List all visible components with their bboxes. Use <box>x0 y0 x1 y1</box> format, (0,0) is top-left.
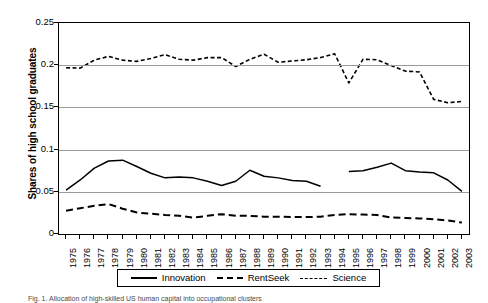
figure-caption: Fig. 1. Allocation of high-skilled US hu… <box>28 295 468 303</box>
x-axis-tick-mark <box>206 235 207 239</box>
x-axis-tick-mark <box>221 235 222 239</box>
y-axis-tick-label: 0.05 <box>20 186 54 196</box>
x-axis-tick-label: 2001 <box>437 248 446 268</box>
x-axis-tick-label: 1979 <box>126 248 135 268</box>
x-axis-tick-label: 1992 <box>309 248 318 268</box>
x-axis-tick-label: 1996 <box>366 248 375 268</box>
series-line-rentseek <box>66 204 462 223</box>
x-axis-tick-label: 1984 <box>196 248 205 268</box>
x-axis-tick-label: 1991 <box>295 248 304 268</box>
chart-figure: Shares of high school graduates 0.250.20… <box>0 0 488 303</box>
x-axis-tick-mark <box>65 235 66 239</box>
y-axis-tick-label: 0.1 <box>20 144 54 154</box>
x-axis-tick-mark <box>376 235 377 239</box>
x-axis-tick-label: 1977 <box>97 248 106 268</box>
x-axis-tick-label: 1989 <box>267 248 276 268</box>
x-axis-tick-mark <box>348 235 349 239</box>
x-axis-tick-label: 2000 <box>423 248 432 268</box>
x-axis-tick-mark <box>79 235 80 239</box>
gridline <box>59 150 469 151</box>
x-axis-tick-label: 1998 <box>394 248 403 268</box>
series-lines <box>59 23 469 234</box>
x-axis-tick-mark <box>404 235 405 239</box>
x-axis-tick-label: 1986 <box>225 248 234 268</box>
x-axis-tick-label: 1997 <box>380 248 389 268</box>
x-axis-tick-label: 1976 <box>83 248 92 268</box>
x-axis-tick-label: 1988 <box>253 248 262 268</box>
y-axis-tick-label: 0.15 <box>20 101 54 111</box>
x-axis-tick-label: 1982 <box>168 248 177 268</box>
x-axis-tick-mark <box>390 235 391 239</box>
gridline <box>59 107 469 108</box>
y-axis-tick-label: 0 <box>20 228 54 238</box>
x-axis-tick-mark <box>150 235 151 239</box>
x-axis-tick-label: 1983 <box>182 248 191 268</box>
x-axis-tick-group: 1975197619771978197919801981198219831984… <box>58 235 470 269</box>
x-axis-tick-mark <box>122 235 123 239</box>
x-axis-tick-label: 1999 <box>408 248 417 268</box>
x-axis-tick-mark <box>362 235 363 239</box>
x-axis-tick-mark <box>164 235 165 239</box>
x-axis-tick-mark <box>263 235 264 239</box>
x-axis-tick-label: 2003 <box>465 248 474 268</box>
chart-legend: InnovationRentSeekScience <box>117 269 380 287</box>
y-axis-tick-label: 0.25 <box>20 17 54 27</box>
x-axis-tick-label: 1993 <box>324 248 333 268</box>
x-axis-tick-mark <box>235 235 236 239</box>
x-axis-tick-mark <box>93 235 94 239</box>
legend-label: Innovation <box>162 273 206 283</box>
x-axis-tick-label: 1995 <box>352 248 361 268</box>
x-axis-tick-label: 1987 <box>239 248 248 268</box>
x-axis-tick-mark <box>334 235 335 239</box>
x-axis-tick-label: 1978 <box>111 248 120 268</box>
x-axis-tick-label: 1980 <box>140 248 149 268</box>
x-axis-tick-mark <box>178 235 179 239</box>
x-axis-tick-mark <box>107 235 108 239</box>
series-line-innovation <box>349 163 462 191</box>
x-axis-tick-mark <box>136 235 137 239</box>
legend-line-swatch-icon <box>217 277 243 279</box>
x-axis-tick-label: 1985 <box>210 248 219 268</box>
x-axis-tick-mark <box>305 235 306 239</box>
legend-label: RentSeek <box>248 273 290 283</box>
series-line-innovation <box>66 160 320 190</box>
x-axis-tick-label: 1975 <box>69 248 78 268</box>
legend-entry-innovation[interactable]: Innovation <box>131 273 206 283</box>
y-axis-tick-group: 0.250.20.150.10.050 <box>18 0 54 303</box>
x-axis-tick-mark <box>249 235 250 239</box>
x-axis-tick-label: 1990 <box>281 248 290 268</box>
legend-label: Science <box>332 273 366 283</box>
legend-line-swatch-icon <box>131 277 157 280</box>
plot-area <box>58 22 470 235</box>
x-axis-tick-mark <box>291 235 292 239</box>
x-axis-tick-label: 2002 <box>451 248 460 268</box>
x-axis-tick-mark <box>461 235 462 239</box>
x-axis-tick-label: 1994 <box>338 248 347 268</box>
x-axis-tick-label: 1981 <box>154 248 163 268</box>
x-axis-tick-mark <box>192 235 193 239</box>
y-axis-tick-label: 0.2 <box>20 59 54 69</box>
x-axis-tick-mark <box>320 235 321 239</box>
series-line-science <box>66 54 462 103</box>
legend-line-swatch-icon <box>300 278 327 279</box>
x-axis-tick-mark <box>447 235 448 239</box>
gridline <box>59 192 469 193</box>
legend-entry-rentseek[interactable]: RentSeek <box>217 273 290 283</box>
gridline <box>59 65 469 66</box>
legend-entry-science[interactable]: Science <box>300 273 366 283</box>
x-axis-tick-mark <box>277 235 278 239</box>
x-axis-tick-mark <box>433 235 434 239</box>
x-axis-tick-mark <box>419 235 420 239</box>
